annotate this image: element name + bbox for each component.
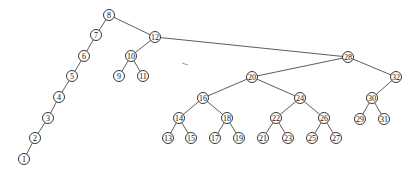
node-label: 30 — [368, 94, 376, 103]
edge-20-24 — [252, 77, 300, 98]
edge-28-32 — [348, 57, 396, 77]
node-label: 15 — [187, 134, 195, 143]
tree-node-5: 5 — [67, 71, 78, 82]
tree-node-10: 10 — [126, 51, 137, 62]
node-label: 22 — [272, 114, 280, 123]
tree-node-15: 15 — [186, 133, 197, 144]
tree-node-24: 24 — [295, 93, 306, 104]
tree-node-7: 7 — [91, 30, 102, 41]
node-label: 24 — [296, 94, 304, 103]
node-label: 21 — [259, 134, 267, 143]
tree-node-17: 17 — [210, 133, 221, 144]
node-label: 1 — [22, 155, 26, 164]
tree-node-21: 21 — [258, 133, 269, 144]
node-label: 26 — [320, 114, 328, 123]
node-label: 23 — [284, 134, 292, 143]
node-label: 28 — [344, 53, 352, 62]
tree-node-19: 19 — [234, 133, 245, 144]
tree-diagram: 8765432112109112820321624301418222629311… — [0, 0, 418, 171]
node-label: 7 — [94, 31, 98, 40]
tree-node-14: 14 — [174, 113, 185, 124]
tree-node-28: 28 — [343, 52, 354, 63]
node-label: 32 — [392, 73, 400, 82]
tree-canvas: 8765432112109112820321624301418222629311… — [0, 0, 418, 171]
node-label: 29 — [356, 115, 364, 124]
tree-node-30: 30 — [367, 93, 378, 104]
edge-28-20 — [252, 57, 348, 77]
tree-node-23: 23 — [283, 133, 294, 144]
tree-node-26: 26 — [319, 113, 330, 124]
node-label: 2 — [33, 134, 37, 143]
node-label: 8 — [107, 11, 111, 20]
tree-node-11: 11 — [138, 71, 149, 82]
node-label: 14 — [175, 114, 183, 123]
tree-node-12: 12 — [150, 32, 161, 43]
tree-node-27: 27 — [331, 133, 342, 144]
edge-12-28 — [155, 37, 348, 57]
node-label: 27 — [332, 134, 340, 143]
node-label: 20 — [248, 73, 256, 82]
tree-node-9: 9 — [114, 71, 125, 82]
tree-node-6: 6 — [79, 51, 90, 62]
tree-node-22: 22 — [271, 113, 282, 124]
node-label: 4 — [57, 93, 61, 102]
node-label: 10 — [127, 52, 135, 61]
node-label: 19 — [235, 134, 243, 143]
tree-node-32: 32 — [391, 72, 402, 83]
node-label: 25 — [308, 134, 316, 143]
node-label: 13 — [164, 134, 172, 143]
node-label: 17 — [211, 134, 219, 143]
edge-8-12 — [109, 15, 155, 37]
node-label: 31 — [380, 115, 388, 124]
tree-node-25: 25 — [307, 133, 318, 144]
tree-node-1: 1 — [19, 154, 30, 165]
node-label: 11 — [139, 72, 147, 81]
tree-node-2: 2 — [30, 133, 41, 144]
tree-node-4: 4 — [54, 92, 65, 103]
node-label: 6 — [82, 52, 86, 61]
tree-node-20: 20 — [247, 72, 258, 83]
node-label: 16 — [199, 94, 207, 103]
stray-mark — [182, 63, 188, 65]
nodes: 8765432112109112820321624301418222629311… — [19, 10, 402, 165]
node-label: 5 — [70, 72, 74, 81]
node-label: 3 — [46, 114, 50, 123]
tree-node-31: 31 — [379, 114, 390, 125]
node-label: 18 — [223, 114, 231, 123]
tree-node-29: 29 — [355, 114, 366, 125]
tree-node-13: 13 — [163, 133, 174, 144]
tree-node-18: 18 — [222, 113, 233, 124]
node-label: 9 — [117, 72, 121, 81]
tree-node-8: 8 — [104, 10, 115, 21]
tree-node-16: 16 — [198, 93, 209, 104]
tree-node-3: 3 — [43, 113, 54, 124]
node-label: 12 — [151, 33, 159, 42]
edge-20-16 — [203, 77, 252, 98]
